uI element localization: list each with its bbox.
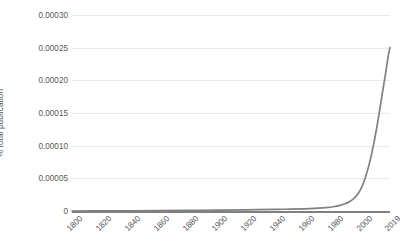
y-axis-tick-labels: 00.000050.000100.000150.000200.000250.00…	[18, 0, 68, 246]
x-axis-tick-label: 1980	[311, 214, 346, 246]
y-axis-tick-label: 0.00015	[18, 109, 68, 118]
x-axis-tick-label: 1880	[166, 214, 201, 246]
x-axis-tick-label: 2019	[368, 214, 403, 246]
series-line-total-publication	[72, 48, 390, 211]
y-axis-tick-label: 0.00030	[18, 11, 68, 20]
x-axis-tick-label: 1940	[253, 214, 288, 246]
y-axis-tick-label: 0	[18, 207, 68, 216]
x-axis-tick-label: 1860	[137, 214, 172, 246]
x-axis-tick-label: 1820	[79, 214, 114, 246]
x-axis-tick-label: 2000	[340, 214, 375, 246]
plot-area	[72, 15, 390, 211]
y-axis-tick-label: 0.00020	[18, 76, 68, 85]
y-axis-tick-label: 0.00005	[18, 174, 68, 183]
y-axis-tick-label: 0.00025	[18, 43, 68, 52]
x-axis-tick-label: 1920	[224, 214, 259, 246]
x-axis-tick-label: 1900	[195, 214, 230, 246]
x-axis-tick-label: 1840	[108, 214, 143, 246]
x-axis-tick-label: 1960	[282, 214, 317, 246]
series-line-layer	[72, 15, 390, 211]
line-chart: % total publication 00.000050.000100.000…	[0, 0, 403, 246]
y-axis-tick-label: 0.00010	[18, 141, 68, 150]
